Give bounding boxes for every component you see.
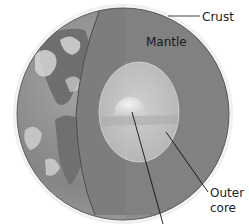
earth-diagram: Crust Mantle Outer core <box>0 0 249 224</box>
crust-label: Crust <box>202 10 234 24</box>
outer-core-label-line1: Outer <box>210 186 244 201</box>
mantle-label: Mantle <box>146 35 187 49</box>
outer-core-label: Outer core <box>210 186 244 216</box>
outer-core-label-line2: core <box>210 201 244 216</box>
